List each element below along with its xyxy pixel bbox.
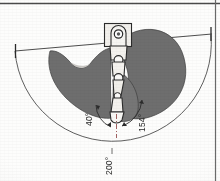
arm-segment-4 bbox=[111, 98, 123, 112]
technical-drawing-svg bbox=[0, 0, 220, 181]
diagram-canvas: 40° 154° 200° bbox=[0, 0, 220, 181]
angle-label-40: 40° bbox=[84, 113, 94, 126]
angle-label-154: 154° bbox=[137, 114, 147, 132]
pivot-bore-inner bbox=[117, 32, 120, 35]
left-envelope-lobe bbox=[49, 48, 112, 118]
angle-label-200: 200° bbox=[104, 157, 114, 175]
